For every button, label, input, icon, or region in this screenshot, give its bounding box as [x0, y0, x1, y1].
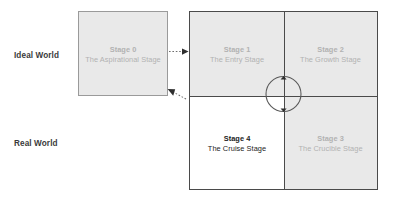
stage-2-title: Stage 2	[284, 45, 377, 55]
stage-2-subtitle: The Growth Stage	[284, 55, 377, 65]
stage-0-box: Stage 0 The Aspirational Stage	[78, 11, 168, 96]
matrix-horizontal-divider	[190, 96, 377, 97]
stage-4-text: Stage 4 The Cruise Stage	[190, 134, 284, 154]
stage-1-quadrant: Stage 1 The Entry Stage	[190, 12, 284, 96]
stage-4-subtitle: The Cruise Stage	[190, 144, 284, 154]
matrix-vertical-divider	[284, 12, 285, 189]
stage-0-title: Stage 0	[79, 45, 167, 55]
stage-2-quadrant: Stage 2 The Growth Stage	[284, 12, 377, 96]
stage-1-title: Stage 1	[190, 45, 284, 55]
real-world-label: Real World	[14, 140, 58, 148]
stage-1-text: Stage 1 The Entry Stage	[190, 45, 284, 65]
stage-4-title: Stage 4	[190, 134, 284, 144]
stage-1-subtitle: The Entry Stage	[190, 55, 284, 65]
quadrant-diagram: Ideal World Real World Stage 0 The Aspir…	[0, 0, 396, 200]
arrow-stage1-to-stage0-icon	[168, 89, 186, 99]
stage-matrix: Stage 1 The Entry Stage Stage 2 The Grow…	[189, 11, 378, 190]
stage-3-subtitle: The Crucible Stage	[284, 144, 377, 154]
stage-0-subtitle: The Aspirational Stage	[79, 55, 167, 65]
stage-0-text: Stage 0 The Aspirational Stage	[79, 45, 167, 65]
stage-3-quadrant: Stage 3 The Crucible Stage	[284, 96, 377, 189]
stage-2-text: Stage 2 The Growth Stage	[284, 45, 377, 65]
stage-3-text: Stage 3 The Crucible Stage	[284, 134, 377, 154]
stage-3-title: Stage 3	[284, 134, 377, 144]
ideal-world-label: Ideal World	[14, 52, 59, 60]
stage-4-quadrant: Stage 4 The Cruise Stage	[190, 96, 284, 189]
arrow-stage0-to-stage1-icon	[169, 48, 189, 54]
